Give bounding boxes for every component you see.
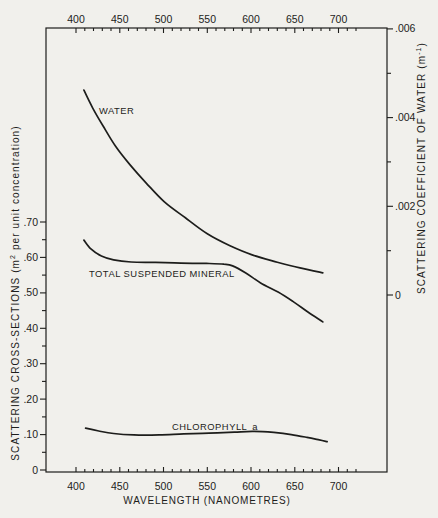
left-axis-tick-label: .70 (23, 216, 38, 228)
left-axis-tick-label: .30 (23, 357, 38, 369)
bottom-axis-tick-label: 650 (286, 480, 304, 492)
right-axis-tick-label: .006 (395, 22, 416, 34)
top-axis-tick-label: 700 (330, 13, 348, 25)
total-suspended-mineral-curve-label: TOTAL SUSPENDED MINERAL (89, 268, 235, 279)
bottom-axis: 400450500550600650700 (67, 467, 356, 492)
top-axis-tick-label: 600 (242, 13, 260, 25)
left-axis: .70.60.50.40.30.20.100 (23, 216, 46, 476)
chlorophyll-a-curve-label: CHLOROPHYLLa (172, 421, 258, 432)
right-axis: .006.004.0020 (387, 22, 416, 300)
right-axis-title-superscript: -1 (415, 46, 422, 54)
left-axis-title-superscript: 2 (9, 254, 16, 259)
water-curve-label: WATER (99, 105, 134, 116)
right-axis-title: SCATTERING COEFFICIENT OF WATER (m-1) (415, 42, 427, 294)
bottom-axis-title: WAVELENGTH (NANOMETRES) (123, 495, 290, 506)
plot-frame (46, 28, 387, 472)
left-axis-title: SCATTERING CROSS-SECTIONS (m2 per unit c… (9, 125, 21, 460)
left-axis-title-text-end: per unit concentration) (10, 125, 21, 254)
left-axis-tick-label: .40 (23, 322, 38, 334)
chlorophyll-label-text: CHLOROPHYLL (172, 421, 247, 432)
figure: 400450500550600650700 400450500550600650… (0, 0, 438, 518)
left-axis-tick-label: .20 (23, 393, 38, 405)
top-axis-tick-label: 450 (111, 13, 129, 25)
top-axis-tick-label: 650 (286, 13, 304, 25)
chlorophyll-a-underlined: a (252, 421, 258, 432)
water-curve (84, 90, 323, 273)
bottom-axis-tick-label: 450 (111, 480, 129, 492)
bottom-axis-tick-label: 550 (199, 480, 217, 492)
bottom-axis-tick-label: 500 (155, 480, 173, 492)
right-axis-tick-label: .002 (395, 200, 416, 212)
chart-svg: 400450500550600650700 400450500550600650… (0, 0, 438, 518)
bottom-axis-tick-label: 400 (67, 480, 85, 492)
right-axis-title-text: SCATTERING COEFFICIENT OF WATER (m (416, 55, 427, 294)
total-suspended-mineral-curve (84, 240, 323, 322)
left-axis-title-text: SCATTERING CROSS-SECTIONS (m (10, 259, 21, 461)
bottom-axis-tick-label: 600 (242, 480, 260, 492)
bottom-axis-tick-label: 700 (330, 480, 348, 492)
top-axis-tick-label: 500 (155, 13, 173, 25)
right-axis-tick-label: .004 (395, 111, 416, 123)
left-axis-tick-label: .10 (23, 428, 38, 440)
left-axis-tick-label: .60 (23, 251, 38, 263)
left-axis-tick-label: 0 (32, 464, 38, 476)
left-axis-tick-label: .50 (23, 286, 38, 298)
top-axis-tick-label: 550 (199, 13, 217, 25)
top-axis: 400450500550600650700 (67, 13, 356, 33)
top-axis-tick-label: 400 (67, 13, 85, 25)
right-axis-title-text-end: ) (416, 42, 427, 46)
right-axis-tick-label: 0 (395, 289, 401, 301)
